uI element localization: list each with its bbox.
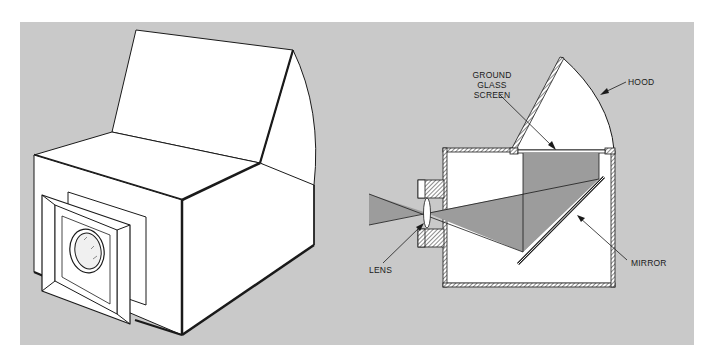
right-wall bbox=[611, 151, 615, 287]
label-mirror: MIRROR bbox=[631, 258, 667, 268]
isometric-camera bbox=[34, 30, 316, 335]
label-lens: LENS bbox=[369, 265, 392, 275]
light-beam-entry bbox=[369, 194, 427, 225]
ground-glass-screen bbox=[518, 150, 605, 153]
label-hood: HOOD bbox=[628, 77, 654, 87]
hood-outline bbox=[513, 57, 614, 150]
lens-element bbox=[424, 198, 431, 228]
label-ground-glass-3: SCREEN bbox=[474, 90, 511, 100]
figure-canvas: GROUND GLASS SCREEN HOOD LENS MIRROR bbox=[0, 0, 718, 359]
label-ground-glass-2: GLASS bbox=[477, 80, 506, 90]
bottom-wall bbox=[443, 283, 615, 287]
top-wall-left bbox=[443, 148, 513, 152]
label-ground-glass-1: GROUND bbox=[473, 70, 512, 80]
